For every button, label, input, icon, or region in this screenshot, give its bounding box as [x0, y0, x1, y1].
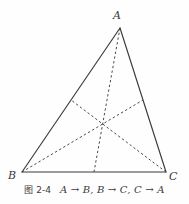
side-AB: [22, 28, 120, 172]
median-from-C: [71, 100, 166, 172]
median-from-A: [94, 28, 120, 172]
figure-caption: 图 2-4A → B, B → C, C → A: [0, 183, 189, 197]
triangle-diagram: [0, 0, 189, 180]
vertex-label-a: A: [113, 10, 121, 21]
caption-mapping-text: A → B, B → C, C → A: [60, 184, 165, 195]
vertex-label-b: B: [8, 170, 16, 181]
median-group: [22, 28, 166, 172]
figure-container: A B C 图 2-4A → B, B → C, C → A: [0, 0, 189, 204]
figure-number: 图 2-4: [24, 185, 51, 195]
vertex-label-c: C: [169, 171, 177, 182]
median-from-B: [22, 100, 143, 172]
triangle-outline: [22, 28, 166, 172]
